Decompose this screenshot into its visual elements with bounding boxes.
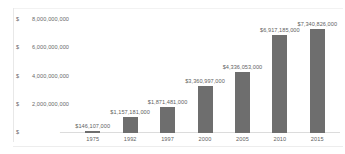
bar bbox=[235, 72, 250, 133]
y-axis-tick-label: 2,000,000,000 bbox=[32, 101, 69, 107]
x-axis-tick-label: 2015 bbox=[311, 136, 324, 142]
bar bbox=[123, 117, 138, 133]
y-axis-tick: $6,000,000,000 bbox=[16, 44, 76, 54]
bar-value-label: $6,917,185,000 bbox=[260, 27, 300, 33]
bar bbox=[160, 107, 175, 133]
chart-frame-bottom bbox=[13, 146, 343, 147]
chart-frame-left bbox=[13, 8, 14, 142]
y-axis-tick-currency: $ bbox=[16, 16, 19, 22]
y-axis-tick-currency: $ bbox=[16, 129, 19, 135]
chart-frame-top bbox=[13, 8, 343, 9]
y-axis-tick: $4,000,000,000 bbox=[16, 73, 76, 83]
y-axis-tick: $2,000,000,000 bbox=[16, 101, 76, 111]
x-axis-tick-label: 1992 bbox=[124, 136, 137, 142]
y-axis-tick-label: 8,000,000,000 bbox=[32, 16, 69, 22]
y-axis-tick: $- bbox=[16, 129, 76, 139]
x-axis-tick-label: 2000 bbox=[199, 136, 212, 142]
x-axis-tick-label: 1997 bbox=[161, 136, 174, 142]
bar bbox=[310, 29, 325, 133]
bar-chart: $8,000,000,000$6,000,000,000$4,000,000,0… bbox=[0, 0, 345, 154]
y-axis-tick-label: 6,000,000,000 bbox=[32, 44, 69, 50]
bar bbox=[198, 86, 213, 133]
x-axis-tick-label: 2005 bbox=[236, 136, 249, 142]
bar-value-label: $3,360,997,000 bbox=[185, 78, 225, 84]
y-axis-tick-currency: $ bbox=[16, 44, 19, 50]
y-axis-tick-label: 4,000,000,000 bbox=[32, 73, 69, 79]
y-axis-tick: $8,000,000,000 bbox=[16, 16, 76, 26]
bar-value-label: $1,871,481,000 bbox=[148, 99, 188, 105]
bar-value-label: $4,336,053,000 bbox=[223, 64, 263, 70]
y-axis-tick-currency: $ bbox=[16, 73, 19, 79]
bar-value-label: $146,107,000 bbox=[75, 123, 110, 129]
bar bbox=[85, 131, 100, 133]
bar-value-label: $1,157,181,000 bbox=[110, 109, 150, 115]
x-axis-tick-label: 2010 bbox=[273, 136, 286, 142]
y-axis-tick-currency: $ bbox=[16, 101, 19, 107]
bar-value-label: $7,340,826,000 bbox=[297, 21, 337, 27]
x-axis-tick-label: 1975 bbox=[86, 136, 99, 142]
bar bbox=[272, 35, 287, 133]
